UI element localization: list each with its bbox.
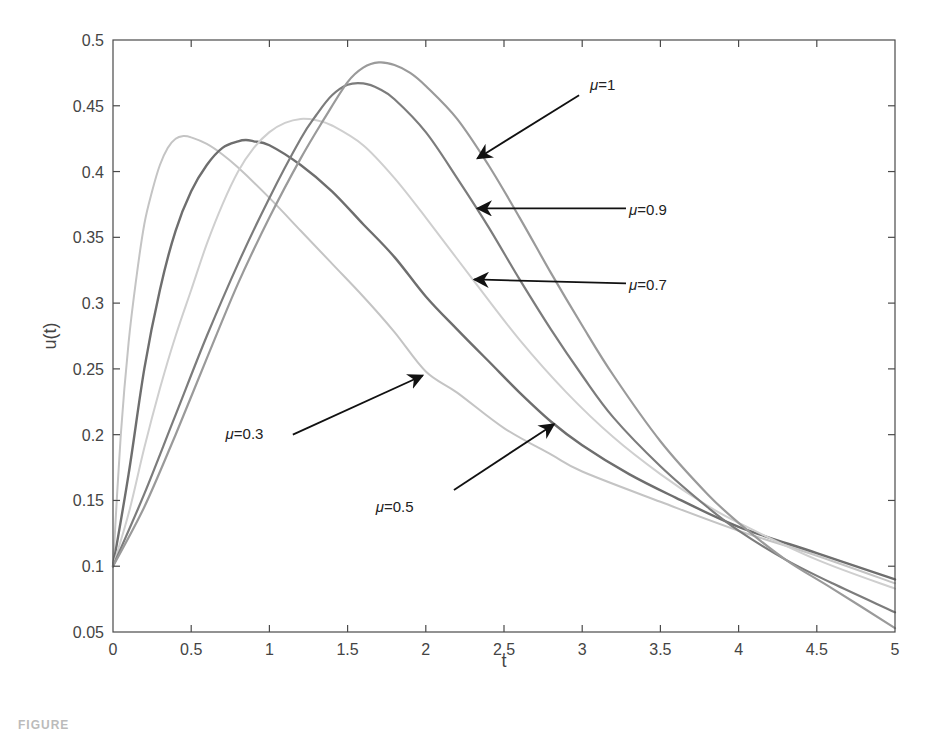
x-axis: 00.511.522.533.544.55	[109, 40, 900, 658]
arrow-icon	[477, 95, 579, 158]
y-tick-label: 0.1	[82, 558, 104, 575]
x-axis-label: t	[501, 651, 506, 671]
y-axis-label: u(t)	[40, 323, 60, 350]
x-tick-label: 1.5	[336, 641, 358, 658]
series-line-mu-0-9	[113, 83, 895, 612]
annotation-mu-1: μ=1	[477, 76, 615, 158]
x-tick-label: 0.5	[180, 641, 202, 658]
arrow-icon	[454, 424, 554, 490]
annotation-label: μ=0.5	[375, 498, 414, 515]
annotation-mu-0-7: μ=0.7	[474, 276, 667, 293]
figure-caption: FIGURE	[18, 718, 69, 732]
annotation-label: μ=0.9	[628, 201, 667, 218]
x-tick-label: 4.5	[806, 641, 828, 658]
annotation-label: μ=1	[589, 76, 615, 93]
y-tick-label: 0.35	[73, 229, 104, 246]
y-tick-label: 0.05	[73, 624, 104, 641]
y-tick-label: 0.2	[82, 427, 104, 444]
x-tick-label: 2	[421, 641, 430, 658]
y-tick-label: 0.4	[82, 164, 104, 181]
y-tick-label: 0.3	[82, 295, 104, 312]
annotation-mu-0-9: μ=0.9	[477, 201, 667, 218]
y-tick-label: 0.45	[73, 98, 104, 115]
x-tick-label: 3	[578, 641, 587, 658]
annotation-mu-0-5: μ=0.5	[375, 424, 554, 515]
x-tick-label: 4	[734, 641, 743, 658]
y-tick-label: 0.25	[73, 361, 104, 378]
x-tick-label: 0	[109, 641, 118, 658]
annotation-label: μ=0.7	[628, 276, 667, 293]
series-line-mu-0-5	[113, 140, 895, 579]
annotation-layer: μ=1μ=0.9μ=0.7μ=0.3μ=0.5	[225, 76, 667, 515]
arrow-icon	[474, 279, 626, 283]
x-tick-label: 1	[265, 641, 274, 658]
x-tick-label: 3.5	[649, 641, 671, 658]
y-tick-label: 0.5	[82, 32, 104, 49]
annotation-label: μ=0.3	[225, 425, 264, 442]
annotation-mu-0-3: μ=0.3	[225, 375, 423, 441]
y-tick-label: 0.15	[73, 492, 104, 509]
series-layer	[113, 62, 895, 628]
arrow-icon	[293, 375, 423, 434]
series-line-mu-0-3	[113, 136, 895, 583]
x-tick-label: 5	[891, 641, 900, 658]
